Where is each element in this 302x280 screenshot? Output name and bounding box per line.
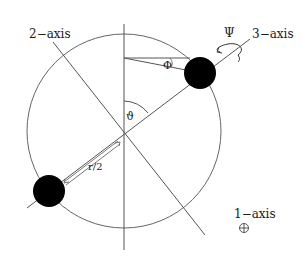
axis-1-out-of-plane-icon [240,224,249,233]
psi-rotation-tail [238,55,240,62]
axis-3-label: 3−axis [252,27,294,41]
half-distance-label: r/2 [88,161,103,172]
mass-right [184,57,216,89]
axis-2-label: 2−axis [29,27,71,41]
phi-label: Φ [163,59,172,72]
axis-1-label: 1−axis [234,207,276,221]
axis-2-line [53,42,205,235]
rotor-diagram: 2−axis 3−axis 1−axis ϑ Φ Ψ r/2 [0,0,302,280]
psi-label: Ψ [224,26,235,40]
mass-left [33,175,65,207]
theta-label: ϑ [126,110,134,123]
psi-rotation-arrow-icon [217,44,241,55]
phi-projection-line [124,58,186,70]
